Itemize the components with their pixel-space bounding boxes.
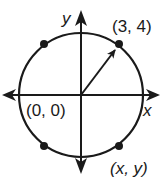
point-q3 [40, 142, 48, 150]
point-q4-label: (x, y) [110, 159, 148, 178]
point-q1 [115, 40, 123, 48]
point-q4 [115, 142, 123, 150]
point-q1-label: (3, 4) [112, 17, 152, 36]
radius-arrow [81, 50, 115, 95]
y-axis-label: y [61, 9, 72, 28]
point-q2 [40, 40, 48, 48]
x-axis-label: x [142, 101, 152, 120]
circle-diagram: y x (3, 4) (0, 0) (x, y) [0, 0, 167, 179]
origin-label: (0, 0) [26, 101, 66, 120]
